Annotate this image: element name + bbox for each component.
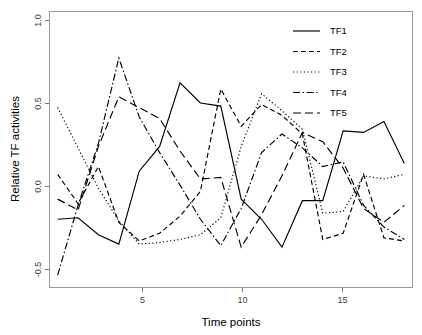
x-tick-label-10: 10 <box>237 295 247 305</box>
y-axis-title: Relative TF activities <box>9 96 21 202</box>
legend-label-tf2: TF2 <box>330 46 347 57</box>
y-tick-label-0.0: 0.0 <box>33 180 43 193</box>
legend-label-tf1: TF1 <box>330 25 347 36</box>
legend-label-tf4: TF4 <box>330 87 347 98</box>
plot-frame <box>50 12 413 288</box>
series-line-tf5 <box>58 97 405 247</box>
series-line-tf3 <box>58 94 405 244</box>
line-chart: 1.0 0.5 0.0 -0.5 Relative TF activities … <box>0 0 422 335</box>
y-axis: 1.0 0.5 0.0 -0.5 <box>33 14 49 277</box>
legend-label-tf5: TF5 <box>330 107 347 118</box>
x-tick-label-15: 15 <box>337 295 347 305</box>
legend-label-tf3: TF3 <box>330 66 347 77</box>
y-tick-label--0.5: -0.5 <box>33 262 43 278</box>
series-group <box>58 58 405 275</box>
x-tick-label-5: 5 <box>140 295 145 305</box>
x-axis-title: Time points <box>201 316 260 328</box>
series-line-tf2 <box>58 89 405 241</box>
y-tick-label-0.5: 0.5 <box>33 97 43 110</box>
x-axis: 5 10 15 <box>140 288 348 305</box>
y-tick-label-1.0: 1.0 <box>33 14 43 27</box>
chart-legend: TF1TF2TF3TF4TF5 <box>293 25 347 118</box>
series-line-tf4 <box>58 58 405 275</box>
chart-figure: 1.0 0.5 0.0 -0.5 Relative TF activities … <box>0 0 422 335</box>
